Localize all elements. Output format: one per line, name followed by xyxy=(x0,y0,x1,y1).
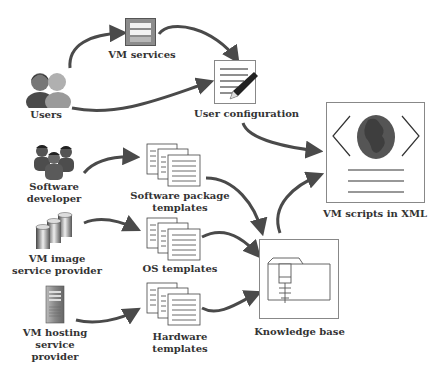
users-icon xyxy=(20,68,75,108)
vm-image-provider-label-line1: VM image xyxy=(12,253,102,265)
software-developer-node[interactable] xyxy=(33,142,75,184)
document-pen-icon xyxy=(214,60,258,106)
arrow-os-templates-to-kb xyxy=(202,233,258,255)
stacked-documents-icon xyxy=(146,217,202,261)
vm-hosting-provider-node[interactable] xyxy=(44,285,66,329)
vm-image-provider-node[interactable] xyxy=(34,212,74,256)
software-package-templates-node[interactable] xyxy=(146,143,202,191)
software-package-templates-label-line2: templates xyxy=(130,202,230,214)
knowledge-folder-icon xyxy=(259,239,341,321)
arrow-kb-to-xml xyxy=(278,175,320,233)
stacked-documents-icon xyxy=(146,143,202,187)
knowledge-base-node[interactable] xyxy=(259,239,341,325)
hardware-templates-label-line2: templates xyxy=(130,343,230,355)
software-developer-label-line2: developer xyxy=(20,193,88,205)
arrow-user-config-to-xml xyxy=(243,123,319,151)
server-panel-icon xyxy=(125,18,157,46)
arrow-hosting-to-hw-templates xyxy=(76,310,137,322)
vm-hosting-provider-label-line1: VM hosting xyxy=(20,327,90,339)
hardware-templates-label-line1: Hardware xyxy=(130,331,230,343)
vm-image-provider-label: VM image service provider xyxy=(12,253,102,277)
vm-scripts-xml-node[interactable] xyxy=(326,102,427,208)
os-templates-node[interactable] xyxy=(146,217,202,265)
users-node[interactable] xyxy=(20,68,75,112)
knowledge-base-label: Knowledge base xyxy=(252,326,347,338)
vm-services-label: VM services xyxy=(107,49,177,61)
arrow-hw-templates-to-kb xyxy=(202,293,258,311)
user-configuration-node[interactable] xyxy=(214,60,258,110)
vm-scripts-xml-label: VM scripts in XML xyxy=(320,208,430,220)
software-developer-label-line1: Software xyxy=(20,181,88,193)
xml-globe-icon xyxy=(326,102,427,204)
arrow-developer-to-sw-templates xyxy=(84,157,136,173)
software-package-templates-label-line1: Software package xyxy=(130,190,230,202)
os-templates-label: OS templates xyxy=(130,263,230,275)
software-developer-label: Software developer xyxy=(20,181,88,205)
database-cylinders-icon xyxy=(34,212,74,252)
arrow-image-to-os-templates xyxy=(84,219,137,229)
vm-hosting-provider-label-line3: provider xyxy=(20,351,90,363)
vm-hosting-provider-label: VM hosting service provider xyxy=(20,327,90,363)
tower-server-icon xyxy=(44,285,66,325)
stacked-documents-icon xyxy=(146,282,202,326)
users-label: Users xyxy=(26,109,66,121)
arrow-users-to-user-config xyxy=(72,82,210,110)
developers-icon xyxy=(33,142,75,180)
vm-image-provider-label-line2: service provider xyxy=(12,265,102,277)
software-package-templates-label: Software package templates xyxy=(130,190,230,214)
vm-services-node[interactable] xyxy=(125,18,157,50)
user-configuration-label: User configuration xyxy=(194,108,284,120)
hardware-templates-node[interactable] xyxy=(146,282,202,330)
vm-hosting-provider-label-line2: service xyxy=(20,339,90,351)
hardware-templates-label: Hardware templates xyxy=(130,331,230,355)
